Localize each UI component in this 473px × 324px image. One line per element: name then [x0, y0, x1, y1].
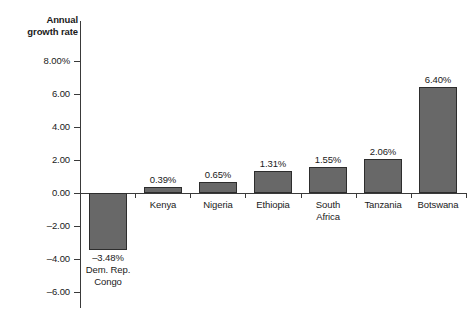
y-axis-tick-label: 8.00% — [0, 56, 70, 66]
x-axis-tick — [245, 193, 246, 198]
bar — [309, 167, 347, 193]
y-axis-tick-label: 0.00 — [0, 188, 70, 198]
y-axis-tick — [74, 127, 80, 128]
y-axis-tick — [74, 160, 80, 161]
y-axis-tick-label: 4.00 — [0, 122, 70, 132]
y-axis-tick — [74, 193, 80, 194]
y-axis-tick-label: –2.00 — [0, 221, 70, 231]
y-axis-tick — [74, 292, 80, 293]
x-axis-tick — [135, 193, 136, 198]
y-axis-tick-label: 2.00 — [0, 155, 70, 165]
y-axis-tick-label: –6.00 — [0, 287, 70, 297]
x-axis-tick — [356, 193, 357, 198]
category-label: Botswana — [398, 199, 473, 211]
x-axis-tick — [190, 193, 191, 198]
y-axis-tick-label: 6.00 — [0, 89, 70, 99]
y-axis-tick — [74, 61, 80, 62]
bar — [419, 87, 457, 193]
x-axis-tick — [466, 193, 467, 198]
bar — [89, 193, 127, 250]
bar-value-label: 0.65% — [178, 169, 258, 180]
bar-value-label: –3.48% — [68, 252, 148, 263]
category-label: Dem. Rep. Congo — [68, 264, 148, 287]
bar-value-label: 6.40% — [398, 74, 473, 85]
bar — [199, 182, 237, 193]
bar-value-label: 2.06% — [343, 146, 423, 157]
bar-chart: Annual growth rate 8.00%6.004.002.000.00… — [0, 0, 473, 324]
x-axis-tick — [411, 193, 412, 198]
y-axis-title: Annual growth rate — [12, 14, 78, 37]
bar — [254, 171, 292, 193]
bar — [364, 159, 402, 193]
x-axis-zero-line — [80, 193, 466, 194]
y-axis-tick — [74, 226, 80, 227]
y-axis-tick — [74, 94, 80, 95]
bar — [144, 187, 182, 193]
y-axis-tick-label: –4.00 — [0, 254, 70, 264]
x-axis-tick — [301, 193, 302, 198]
